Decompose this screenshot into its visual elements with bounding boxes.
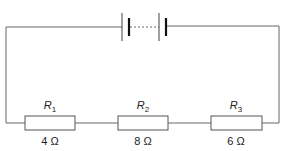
circuit-diagram: [0, 0, 285, 151]
resistor-r3: [211, 116, 262, 130]
resistor-r1-value: 4 Ω: [30, 135, 70, 147]
resistor-r3-label: R3: [216, 99, 256, 116]
battery-icon: [122, 13, 166, 41]
resistor-r3-value: 6 Ω: [216, 135, 256, 147]
resistor-r2-label: R2: [123, 99, 163, 116]
resistor-r2: [118, 116, 168, 130]
resistor-r2-value: 8 Ω: [123, 135, 163, 147]
resistor-r1: [25, 116, 75, 130]
resistor-r1-label: R1: [30, 99, 70, 116]
